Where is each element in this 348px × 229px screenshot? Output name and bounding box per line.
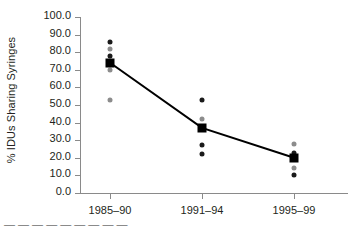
y-tick-label: 30.0 [50,132,71,144]
clipped-caption: — — — — — — — — — [0,222,348,229]
data-point [108,97,113,102]
mean-marker [106,58,115,67]
data-point [108,67,113,72]
data-point [200,117,205,122]
x-tick-label: 1985–90 [89,204,132,216]
mean-marker [290,153,299,162]
plot-area: 0.010.020.030.040.050.060.070.080.090.01… [80,14,348,194]
data-point [108,46,113,51]
x-tick-label: 1991–94 [181,204,224,216]
y-tick-label: 80.0 [50,44,71,56]
y-axis-title: % IDUs Sharing Syringes [0,0,22,200]
y-tick-label: 40.0 [50,115,71,127]
y-tick-label: 70.0 [50,62,71,74]
y-tick-label: 100.0 [43,9,71,21]
x-tick [294,194,295,199]
y-tick-label: 50.0 [50,97,71,109]
x-tick [110,194,111,199]
data-point [108,39,113,44]
data-point [200,152,205,157]
y-tick-label: 0.0 [56,185,71,197]
y-tick-label: 10.0 [50,167,71,179]
trend-line [80,14,348,194]
data-point [292,173,297,178]
mean-marker [198,123,207,132]
y-axis-title-label: % IDUs Sharing Syringes [5,37,17,163]
y-tick-label: 90.0 [50,27,71,39]
y-tick-label: 60.0 [50,79,71,91]
data-point [200,97,205,102]
x-tick [202,194,203,199]
data-point [200,143,205,148]
data-point [292,166,297,171]
y-tick-label: 20.0 [50,150,71,162]
chart-figure: % IDUs Sharing Syringes 0.010.020.030.04… [0,0,348,229]
clipped-caption-text: — — — — — — — — — [4,222,348,229]
data-point [292,141,297,146]
x-tick-label: 1995–99 [273,204,316,216]
